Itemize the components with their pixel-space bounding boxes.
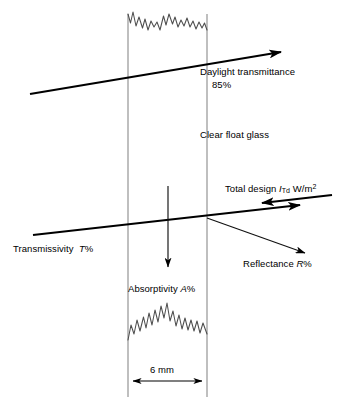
transmissivity-prefix: Transmissivity [13,243,74,254]
transmissivity-label: Transmissivity T% [13,243,93,256]
bottom-break-line [128,303,207,340]
reflectance-ray [207,218,305,253]
clear-float-glass-text: Clear float glass [200,129,269,140]
absorptivity-suffix: % [187,283,196,294]
top-break-line [128,12,207,30]
reflectance-prefix: Reflectance [243,258,294,269]
daylight-transmittance-label: Daylight transmittance 85% [200,66,295,92]
reflectance-label: Reflectance R% [243,258,312,271]
glass-transmittance-diagram: Daylight transmittance 85% Clear float g… [0,0,345,409]
diagram-canvas [0,0,345,409]
thickness-label: 6 mm [150,364,174,377]
thickness-text: 6 mm [150,364,174,375]
total-design-subscript: Td [282,187,290,194]
clear-float-glass-label: Clear float glass [200,129,269,142]
total-design-units: W/m [293,183,313,194]
total-design-label: Total design ITd W/m2 [225,182,316,196]
total-design-incident-ray [262,195,332,203]
absorptivity-prefix: Absorptivity [128,283,178,294]
daylight-transmittance-value: 85% [200,79,295,92]
total-design-units-exponent: 2 [312,183,316,190]
daylight-transmittance-text: Daylight transmittance [200,66,295,77]
reflectance-suffix: % [303,258,312,269]
transmissivity-ray [33,205,300,235]
total-design-prefix: Total design [225,183,276,194]
absorptivity-label: Absorptivity A% [128,283,195,296]
transmissivity-suffix: % [85,243,94,254]
